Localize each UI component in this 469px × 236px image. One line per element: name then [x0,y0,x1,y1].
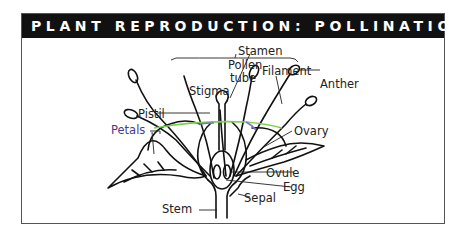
filament-leader [276,76,282,104]
label-stamen: Stamen [238,44,282,58]
egg-leader [226,180,291,187]
label-stem: Stem [162,202,192,216]
label-sepal: Sepal [244,191,276,205]
label-pistil: Pistil [138,107,165,121]
label-pollen-tube-line1: Pollen [228,58,262,72]
label-stigma: Stigma [189,84,230,98]
label-ovary: Ovary [294,124,329,138]
label-anther: Anther [320,77,359,91]
stem-right [227,182,236,218]
label-pollen-tube-line2: tube [230,71,256,85]
label-egg: Egg [283,180,305,194]
flower-diagram: Stamen Filament Anther Pollen tube Stigm… [0,0,469,236]
petal-left [108,141,206,188]
label-ovule: Ovule [266,166,299,180]
label-filament: Filament [262,64,312,78]
label-petals: Petals [111,123,145,137]
